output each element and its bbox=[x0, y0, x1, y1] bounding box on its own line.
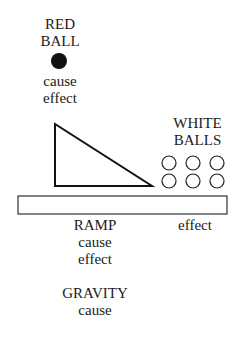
ramp-title: RAMP bbox=[60, 217, 130, 234]
ramp-triangle bbox=[55, 124, 152, 186]
ramp-role-cause: cause bbox=[60, 234, 130, 251]
table-board bbox=[18, 196, 227, 214]
gravity-title: GRAVITY bbox=[50, 285, 140, 302]
red-ball-title-1: RED bbox=[30, 16, 90, 33]
ramp-role-effect: effect bbox=[60, 251, 130, 268]
gravity-label: GRAVITY cause bbox=[50, 285, 140, 319]
red-ball-label: RED BALL bbox=[30, 16, 90, 50]
white-balls-role: effect bbox=[160, 217, 230, 234]
white-balls-label: WHITE BALLS bbox=[160, 115, 235, 149]
white-balls-group bbox=[162, 156, 224, 188]
red-ball-icon bbox=[51, 53, 67, 69]
white-balls-title-2: BALLS bbox=[160, 132, 235, 149]
red-ball-role-effect: effect bbox=[30, 90, 90, 107]
gravity-role: cause bbox=[50, 302, 140, 319]
white-balls-title-1: WHITE bbox=[160, 115, 235, 132]
ramp-label: RAMP cause effect bbox=[60, 217, 130, 268]
red-ball-roles: cause effect bbox=[30, 73, 90, 107]
red-ball-title-2: BALL bbox=[30, 33, 90, 50]
red-ball-role-cause: cause bbox=[30, 73, 90, 90]
